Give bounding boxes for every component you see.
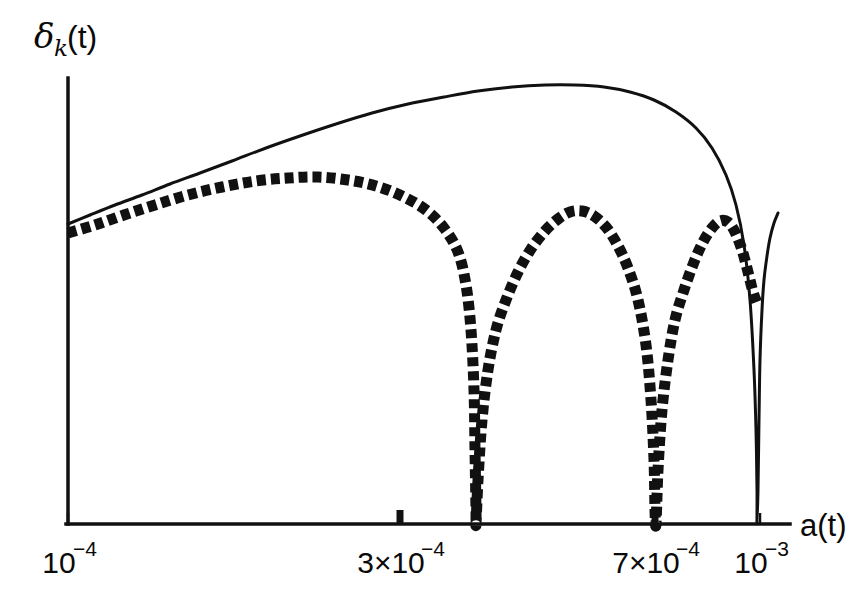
chart-figure: 10−43×10−47×10−410−3 δ k (t) a(t) [0, 0, 866, 604]
x-tick-label-exponent: −4 [73, 537, 97, 560]
plot-canvas: 10−43×10−47×10−410−3 δ k (t) a(t) [0, 0, 866, 604]
x-tick-label-text: 3×10 [357, 546, 425, 579]
y-axis-title-subscript: k [54, 35, 68, 61]
plot-background [0, 0, 866, 604]
x-tick-label-exponent: −4 [676, 537, 700, 560]
x-tick-label-text: 7×10 [612, 546, 680, 579]
x-tick-label-exponent: −4 [421, 537, 445, 560]
y-axis-title-delta: δ [34, 16, 54, 56]
y-axis-title-arg: (t) [67, 19, 97, 55]
x-tick-label-exponent: −3 [765, 537, 789, 560]
x-tick-label-text: 10 [734, 546, 767, 579]
x-axis-title: a(t) [800, 508, 847, 543]
x-tick-label-text: 10 [42, 546, 75, 579]
